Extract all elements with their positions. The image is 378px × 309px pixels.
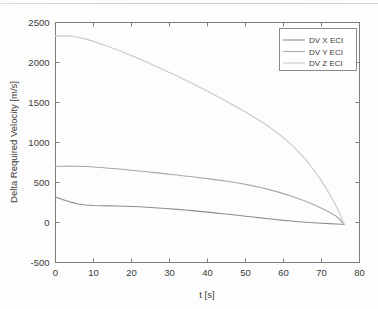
figure-canvas: 01020304050607080 -500050010001500200025… (0, 0, 378, 309)
line-chart: 01020304050607080 -500050010001500200025… (0, 0, 378, 309)
x-tick-label: 30 (164, 267, 175, 278)
series-line-dv-y-eci (56, 166, 345, 224)
x-tick-label: 60 (278, 267, 289, 278)
scan-artifact-line (0, 3, 378, 4)
y-axis-tick-labels: -50005001000150020002500 (28, 17, 49, 268)
x-tick-label: 40 (202, 267, 213, 278)
x-tick-label: 80 (354, 267, 365, 278)
legend-label-1: DV Y ECI (309, 48, 343, 57)
y-tick-label: 1000 (28, 137, 49, 148)
chart-legend[interactable]: DV X ECIDV Y ECIDV Z ECI (280, 29, 357, 71)
x-tick-label: 50 (240, 267, 251, 278)
y-tick-label: 0 (44, 217, 49, 228)
y-axis-label: Delta Required Velocity [m/s] (8, 81, 19, 203)
x-tick-label: 20 (126, 267, 137, 278)
x-tick-label: 0 (53, 267, 58, 278)
x-tick-label: 70 (316, 267, 327, 278)
y-tick-label: 2500 (28, 17, 49, 28)
y-tick-label: 500 (34, 177, 50, 188)
y-tick-label: 1500 (28, 97, 49, 108)
y-tick-label: 2000 (28, 57, 49, 68)
y-tick-label: -500 (30, 257, 49, 268)
legend-label-0: DV X ECI (309, 36, 343, 45)
series-line-dv-x-eci (56, 197, 345, 225)
legend-label-2: DV Z ECI (309, 59, 343, 68)
x-tick-label: 10 (88, 267, 99, 278)
x-axis-label: t [s] (199, 289, 214, 300)
x-axis-tick-labels: 01020304050607080 (53, 267, 365, 278)
